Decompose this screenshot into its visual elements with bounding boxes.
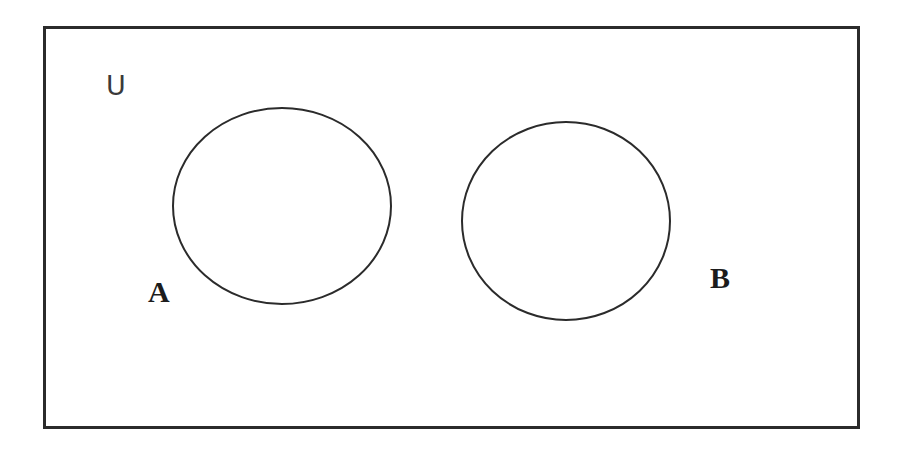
universal-set-label: U <box>106 72 126 99</box>
set-a-ellipse <box>173 108 391 304</box>
set-b-label: B <box>710 263 730 293</box>
set-a-label: A <box>148 277 170 307</box>
venn-diagram-figure <box>0 0 902 449</box>
venn-diagram-canvas: U A B <box>0 0 902 449</box>
universal-set-rectangle <box>44 27 858 427</box>
set-b-ellipse <box>462 122 670 320</box>
